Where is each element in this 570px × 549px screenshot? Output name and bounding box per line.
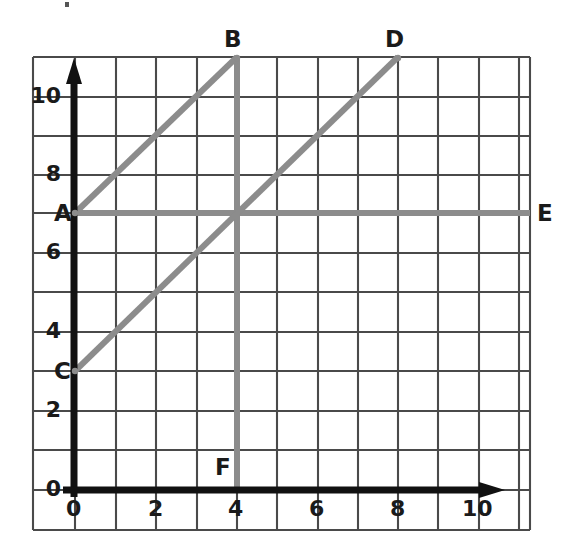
- y-tick-label-4: 4: [25, 320, 61, 342]
- point-C-dot: [72, 368, 78, 374]
- y-tick-label-8: 8: [25, 163, 61, 185]
- point-label-A: A: [54, 202, 72, 225]
- point-label-B: B: [224, 28, 242, 51]
- y-tick-label-10: 10: [25, 85, 61, 107]
- point-label-F: F: [215, 456, 231, 479]
- x-tick-label-2: 2: [148, 498, 163, 520]
- point-B-dot: [234, 55, 240, 61]
- x-tick-label-6: 6: [309, 498, 324, 520]
- y-tick-label-0: 0: [25, 478, 61, 500]
- point-A-dot: [72, 210, 78, 216]
- coordinate-plane-svg: [0, 0, 570, 549]
- coordinate-grid-figure: 10 8 6 4 2 0 0 2 4 6 8 10 A B C D E F: [0, 0, 570, 549]
- point-D-dot: [395, 55, 401, 61]
- point-label-D: D: [385, 28, 404, 51]
- y-tick-label-2: 2: [25, 399, 61, 421]
- y-tick-label-6: 6: [25, 241, 61, 263]
- point-label-E: E: [537, 202, 553, 225]
- x-tick-label-0: 0: [66, 498, 81, 520]
- plot-background: [33, 57, 530, 530]
- x-tick-label-8: 8: [390, 498, 405, 520]
- point-label-C: C: [54, 360, 71, 383]
- x-tick-label-4: 4: [228, 498, 243, 520]
- x-tick-label-10: 10: [462, 498, 493, 520]
